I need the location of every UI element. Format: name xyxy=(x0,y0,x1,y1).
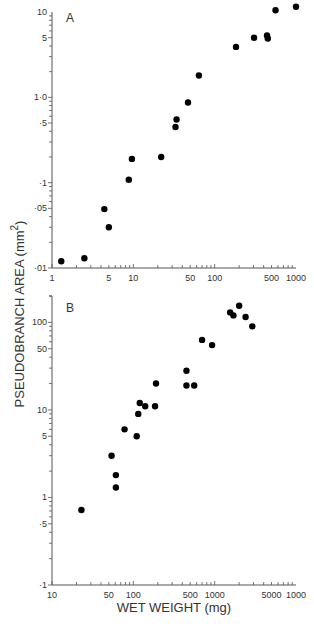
data-point xyxy=(172,124,178,130)
y-tick-label: ·1 xyxy=(39,178,47,188)
scatter-plots: 1510501005001000·01·05·1·51·0510A 105010… xyxy=(0,0,314,628)
x-tick-label: 1 xyxy=(49,273,54,283)
data-point xyxy=(183,382,189,388)
data-point xyxy=(230,312,236,318)
x-tick-label: 1000 xyxy=(286,590,306,600)
data-point xyxy=(173,116,179,122)
data-point xyxy=(153,380,159,386)
x-tick-label: 100 xyxy=(207,273,222,283)
y-tick-label: ·5 xyxy=(39,118,47,128)
y-tick-label: ·05 xyxy=(34,203,47,213)
data-point xyxy=(293,4,299,10)
y-tick-label: 1·0 xyxy=(34,92,47,102)
y-tick-label: 100 xyxy=(32,317,47,327)
data-point xyxy=(135,411,141,417)
data-point xyxy=(249,323,255,329)
data-point xyxy=(58,258,64,264)
y-tick-label: 5 xyxy=(42,33,47,43)
data-point xyxy=(209,342,215,348)
panel-label: B xyxy=(66,301,74,315)
y-tick-label: 10 xyxy=(37,405,47,415)
data-point xyxy=(191,382,197,388)
data-point xyxy=(272,7,278,13)
y-tick-label: ·1 xyxy=(39,580,47,590)
data-point xyxy=(113,484,119,490)
x-tick-label: 100 xyxy=(126,590,141,600)
x-tick-label: 10 xyxy=(47,590,57,600)
x-axis-label: WET WEIGHT (mg) xyxy=(117,600,231,615)
x-tick-label: 50 xyxy=(104,590,114,600)
x-tick-label: 50 xyxy=(185,273,195,283)
panel-b: 1050100500100050001000·1·5151050100B xyxy=(32,296,306,600)
y-axis-label-group: PSEUDOBRANCH AREA (mm2) xyxy=(9,221,27,408)
y-tick-label: 10 xyxy=(37,7,47,17)
y-tick-label: 1 xyxy=(42,492,47,502)
data-point xyxy=(101,206,107,212)
y-tick-label: 50 xyxy=(37,344,47,354)
data-point xyxy=(137,400,143,406)
panel-a: 1510501005001000·01·05·1·51·0510A xyxy=(34,4,306,283)
figure: 1510501005001000·01·05·1·51·0510A 105010… xyxy=(0,0,314,628)
data-point xyxy=(106,224,112,230)
data-point xyxy=(265,35,271,41)
data-point xyxy=(113,472,119,478)
x-tick-label: 500 xyxy=(183,590,198,600)
x-tick-label: 5 xyxy=(106,273,111,283)
data-point xyxy=(199,337,205,343)
data-point xyxy=(142,403,148,409)
data-point xyxy=(242,314,248,320)
y-tick-label: ·5 xyxy=(39,519,47,529)
data-point xyxy=(152,403,158,409)
y-tick-label: ·01 xyxy=(34,263,47,273)
x-tick-label: 1000 xyxy=(286,273,306,283)
data-point xyxy=(183,368,189,374)
data-point xyxy=(121,426,127,432)
data-point xyxy=(196,72,202,78)
data-point xyxy=(126,177,132,183)
data-point xyxy=(129,156,135,162)
data-point xyxy=(185,99,191,105)
x-tick-label: 1000 xyxy=(205,590,225,600)
data-point xyxy=(133,433,139,439)
x-tick-label: 10 xyxy=(128,273,138,283)
y-tick-label: 5 xyxy=(42,431,47,441)
x-tick-label: 500 xyxy=(264,273,279,283)
panel-label: A xyxy=(66,11,74,25)
y-axis-label: PSEUDOBRANCH AREA (mm2) xyxy=(9,221,27,408)
data-point xyxy=(251,34,257,40)
data-point xyxy=(78,507,84,513)
data-point xyxy=(158,154,164,160)
x-tick-label: 5000 xyxy=(262,590,282,600)
data-point xyxy=(236,302,242,308)
data-point xyxy=(233,44,239,50)
data-point xyxy=(108,452,114,458)
data-point xyxy=(81,255,87,261)
